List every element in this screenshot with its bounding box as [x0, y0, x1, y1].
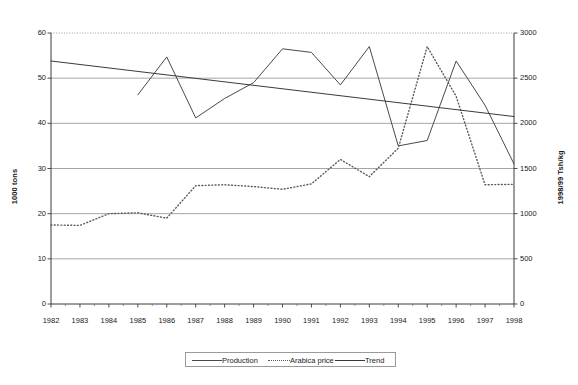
plot-area [0, 0, 578, 385]
y-axis-right-tick-1000: 1000 [520, 209, 550, 218]
y-axis-right-tick-2000: 2000 [520, 118, 550, 127]
legend-swatch-production [192, 360, 222, 361]
legend-label-trend: Trend [365, 356, 384, 365]
legend-swatch-arabica-price [268, 360, 290, 361]
y-axis-left-tick-10: 10 [20, 254, 46, 263]
legend-label-production: Production [222, 356, 258, 365]
chart-container: 1000 tons 1998/99 Tsh/kg 0102030405060 0… [0, 0, 578, 385]
y-axis-right-tick-0: 0 [520, 299, 550, 308]
y-axis-right-tick-3000: 3000 [520, 28, 550, 37]
y-axis-left-tick-30: 30 [20, 164, 46, 173]
y-axis-right-title: 1998/99 Tsh/kg [556, 133, 565, 223]
legend-swatch-trend [335, 360, 365, 361]
y-axis-left-tick-0: 0 [20, 299, 46, 308]
y-axis-right-tick-500: 500 [520, 254, 550, 263]
series-line-arabica-price [51, 47, 514, 226]
chart-legend: Production Arabica price Trend [185, 352, 396, 367]
y-axis-left-tick-50: 50 [20, 73, 46, 82]
y-axis-left-tick-20: 20 [20, 209, 46, 218]
series-line-production [138, 47, 514, 164]
y-axis-left-title: 1000 tons [10, 152, 19, 222]
y-axis-left-tick-40: 40 [20, 118, 46, 127]
x-axis-tick-1998: 1998 [497, 316, 531, 325]
y-axis-right-tick-1500: 1500 [520, 164, 550, 173]
y-axis-right-tick-2500: 2500 [520, 73, 550, 82]
y-axis-left-tick-60: 60 [20, 28, 46, 37]
legend-label-arabica-price: Arabica price [290, 356, 334, 365]
series-line-trend [51, 61, 514, 117]
